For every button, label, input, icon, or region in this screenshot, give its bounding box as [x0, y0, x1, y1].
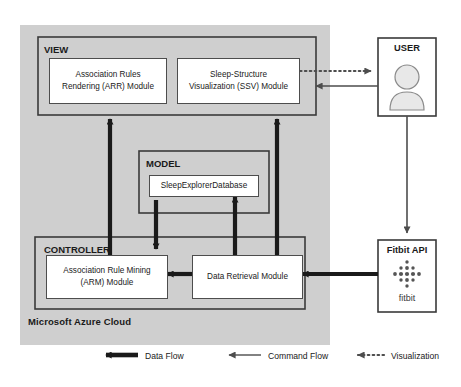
- controller-title: CONTROLLER: [44, 244, 110, 255]
- ssv-module[interactable]: Sleep-Structure Visualization (SSV) Modu…: [177, 58, 300, 104]
- arm-module-line1: Association Rule Mining: [63, 266, 150, 275]
- fitbit-wordmark: fitbit: [378, 293, 436, 303]
- view-title: VIEW: [44, 44, 68, 55]
- ssv-module-line1: Sleep-Structure: [210, 70, 267, 79]
- sleep-explorer-database-label: SleepExplorerDatabase: [161, 180, 247, 192]
- user-box-title: USER: [378, 43, 436, 53]
- arr-module[interactable]: Association Rules Rendering (ARR) Module: [49, 58, 167, 104]
- ssv-module-line2: Visualization (SSV) Module: [189, 82, 288, 91]
- sleep-explorer-database[interactable]: SleepExplorerDatabase: [149, 175, 259, 197]
- legend-visualization-label: Visualization: [391, 351, 439, 361]
- arm-module-line2: (ARM) Module: [81, 278, 134, 287]
- fitbit-api-title: Fitbit API: [378, 245, 436, 255]
- data-retrieval-module-label: Data Retrieval Module: [207, 271, 288, 283]
- arm-module[interactable]: Association Rule Mining (ARM) Module: [46, 255, 168, 299]
- data-retrieval-module[interactable]: Data Retrieval Module: [192, 255, 303, 299]
- model-title: MODEL: [146, 158, 180, 169]
- arr-module-line1: Association Rules: [75, 70, 140, 79]
- arr-module-line2: Rendering (ARR) Module: [62, 82, 154, 91]
- architecture-diagram: Microsoft Azure Cloud VIEW MODEL CONTROL…: [0, 0, 461, 387]
- legend-command-flow-label: Command Flow: [268, 351, 328, 361]
- azure-cloud-label: Microsoft Azure Cloud: [28, 316, 131, 327]
- legend-data-flow-label: Data Flow: [145, 351, 184, 361]
